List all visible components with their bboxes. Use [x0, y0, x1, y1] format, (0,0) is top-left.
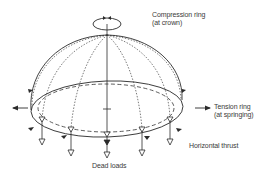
tension-ring-label-line1: Tension ring	[214, 103, 253, 111]
tension-ring-label-line2: (at springing)	[214, 111, 253, 119]
central-axis	[103, 24, 111, 140]
compression-ring-label-line2: (at crown)	[152, 19, 205, 27]
compression-ring-label: Compression ring (at crown)	[152, 11, 205, 26]
tension-ring-label: Tension ring (at springing)	[214, 103, 253, 118]
inner-dashed-ring	[38, 84, 174, 132]
horizontal-thrust-label: Horizontal thrust	[189, 142, 238, 150]
dotted-meridians	[32, 35, 181, 128]
dead-load-arrows	[39, 117, 173, 158]
dome-outline	[31, 35, 182, 110]
horizontal-thrust-text: Horizontal thrust	[189, 142, 238, 150]
dead-loads-label: Dead loads	[92, 162, 126, 170]
dome-diagram	[0, 0, 263, 179]
compression-ring-label-line1: Compression ring	[152, 11, 205, 19]
dead-loads-text: Dead loads	[92, 162, 126, 170]
